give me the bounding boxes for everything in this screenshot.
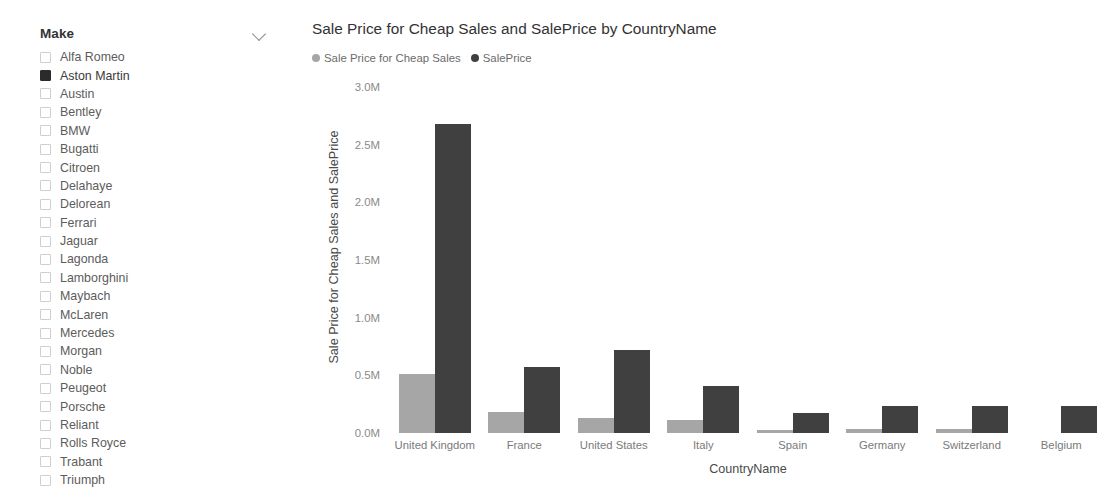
x-axis-tick-label: France [507,439,542,451]
slicer-item[interactable]: Morgan [40,342,268,360]
x-axis-tick-label: Spain [778,439,807,451]
slicer-item[interactable]: McLaren [40,305,268,323]
slicer-item[interactable]: Jaguar [40,232,268,250]
slicer-item[interactable]: Rolls Royce [40,434,268,452]
bar-group [838,87,928,433]
y-axis-tick-label: 0.5M [324,369,380,381]
y-axis-tick-label: 2.5M [324,139,380,151]
slicer-item-list: Alfa RomeoAston MartinAustinBentleyBMWBu… [40,48,268,489]
slicer-item[interactable]: Delahaye [40,177,268,195]
bar[interactable] [882,406,918,433]
slicer-header: Make [40,26,268,41]
chevron-down-icon[interactable] [253,29,268,38]
slicer-item[interactable]: Peugeot [40,379,268,397]
checkbox-icon[interactable] [40,272,51,283]
slicer-item-label: Jaguar [60,234,98,248]
bar[interactable] [936,429,972,433]
make-slicer: Make Alfa RomeoAston MartinAustinBentley… [0,0,290,502]
checkbox-icon[interactable] [40,475,51,486]
slicer-item[interactable]: Delorean [40,195,268,213]
slicer-item-label: Triumph [60,473,105,487]
bar[interactable] [667,420,703,433]
slicer-item[interactable]: Ferrari [40,214,268,232]
slicer-item[interactable]: Bentley [40,103,268,121]
slicer-item[interactable]: Aston Martin [40,66,268,84]
checkbox-icon[interactable] [40,456,51,467]
checkbox-icon[interactable] [40,88,51,99]
slicer-item[interactable]: Austin [40,85,268,103]
checkbox-icon[interactable] [40,217,51,228]
bar[interactable] [1061,406,1097,433]
slicer-item[interactable]: Triumph [40,471,268,489]
bar[interactable] [757,430,793,433]
bar[interactable] [972,406,1008,433]
checkbox-icon[interactable] [40,236,51,247]
checkbox-icon[interactable] [40,328,51,339]
slicer-item-label: Reliant [60,418,99,432]
slicer-item[interactable]: Reliant [40,416,268,434]
x-axis-tick-label: Germany [859,439,905,451]
bar-group [748,87,838,433]
checkbox-icon[interactable] [40,107,51,118]
slicer-item[interactable]: Porsche [40,397,268,415]
bar[interactable] [578,418,614,433]
slicer-item-label: Aston Martin [60,69,130,83]
slicer-item-label: Alfa Romeo [60,50,125,64]
checkbox-icon[interactable] [40,420,51,431]
checkbox-icon[interactable] [40,254,51,265]
bar[interactable] [399,374,435,433]
bar[interactable] [488,412,524,433]
slicer-item[interactable]: Trabant [40,453,268,471]
bar[interactable] [614,350,650,433]
slicer-item[interactable]: BMW [40,122,268,140]
slicer-item-label: Delorean [60,197,110,211]
slicer-item[interactable]: Noble [40,361,268,379]
y-axis-tick-label: 1.5M [324,254,380,266]
checkbox-icon[interactable] [40,180,51,191]
bar-group [390,87,480,433]
slicer-item-label: Peugeot [60,381,106,395]
bar[interactable] [846,429,882,433]
bar[interactable] [793,413,829,433]
checkbox-icon[interactable] [40,346,51,357]
slicer-item-label: Morgan [60,344,102,358]
plot-area-wrapper: Sale Price for Cheap Sales and SalePrice… [300,0,1116,502]
x-axis-tick-label: United Kingdom [395,439,475,451]
bar[interactable] [703,386,739,433]
checkbox-icon[interactable] [40,199,51,210]
bar-group [480,87,570,433]
slicer-item[interactable]: Lamborghini [40,269,268,287]
checkbox-icon[interactable] [40,70,51,81]
bar[interactable] [524,367,560,433]
slicer-item[interactable]: Lagonda [40,250,268,268]
x-axis-tick-label: Italy [693,439,714,451]
slicer-item[interactable]: Bugatti [40,140,268,158]
checkbox-icon[interactable] [40,383,51,394]
slicer-item-label: Porsche [60,400,105,414]
checkbox-icon[interactable] [40,309,51,320]
slicer-item-label: Delahaye [60,179,112,193]
bar-group [569,87,659,433]
checkbox-icon[interactable] [40,364,51,375]
bar-chart-visual: Sale Price for Cheap Sales and SalePrice… [300,0,1116,502]
slicer-item[interactable]: Citroen [40,158,268,176]
checkbox-icon[interactable] [40,125,51,136]
slicer-item-label: Bugatti [60,142,99,156]
checkbox-icon[interactable] [40,162,51,173]
slicer-item[interactable]: Mercedes [40,324,268,342]
checkbox-icon[interactable] [40,438,51,449]
bar-group [1017,87,1107,433]
slicer-item-label: Mercedes [60,326,114,340]
checkbox-icon[interactable] [40,291,51,302]
bar[interactable] [435,124,471,433]
checkbox-icon[interactable] [40,52,51,63]
checkbox-icon[interactable] [40,144,51,155]
slicer-item-label: McLaren [60,308,108,322]
slicer-item[interactable]: Alfa Romeo [40,48,268,66]
y-axis-ticks: 0.0M0.5M1.0M1.5M2.0M2.5M3.0M [324,0,380,502]
checkbox-icon[interactable] [40,401,51,412]
slicer-item[interactable]: Maybach [40,287,268,305]
slicer-item-label: Bentley [60,105,101,119]
slicer-item-label: Rolls Royce [60,436,126,450]
slicer-item-label: BMW [60,124,90,138]
